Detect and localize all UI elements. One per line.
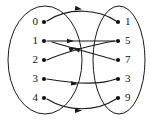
arrowheads-layer (67, 6, 82, 113)
node-label-L4: 4 (33, 91, 39, 103)
node-label-L2: 2 (33, 53, 39, 65)
node-label-R1: 1 (125, 15, 131, 27)
node-label-R9: 9 (125, 91, 131, 103)
node-dot-L0[interactable] (42, 20, 46, 24)
edge-7-to-crossing (52, 42, 115, 60)
node-label-R7: 7 (125, 53, 131, 65)
node-dot-L2[interactable] (42, 58, 46, 62)
node-label-L1: 1 (33, 34, 39, 46)
node-label-L3: 3 (33, 72, 39, 84)
node-dot-R9[interactable] (116, 96, 120, 100)
node-label-R5: 5 (125, 34, 131, 46)
mapping-diagram: 0123415739 (0, 0, 156, 120)
node-dot-L1[interactable] (42, 39, 46, 43)
edge-0-to-1 (47, 11, 116, 21)
node-dot-L3[interactable] (42, 77, 46, 81)
node-label-R3: 3 (125, 72, 131, 84)
node-dot-R3[interactable] (116, 77, 120, 81)
node-dot-R7[interactable] (116, 58, 120, 62)
node-dot-R5[interactable] (116, 39, 120, 43)
node-label-L0: 0 (33, 15, 39, 27)
node-dot-R1[interactable] (116, 20, 120, 24)
node-dot-L4[interactable] (42, 96, 46, 100)
edge-3-to-3 (47, 79, 116, 83)
edge-4-to-9 (47, 99, 116, 109)
diagram-canvas: 0123415739 (0, 0, 156, 120)
edge-1-to-5-arrowhead (67, 39, 74, 44)
